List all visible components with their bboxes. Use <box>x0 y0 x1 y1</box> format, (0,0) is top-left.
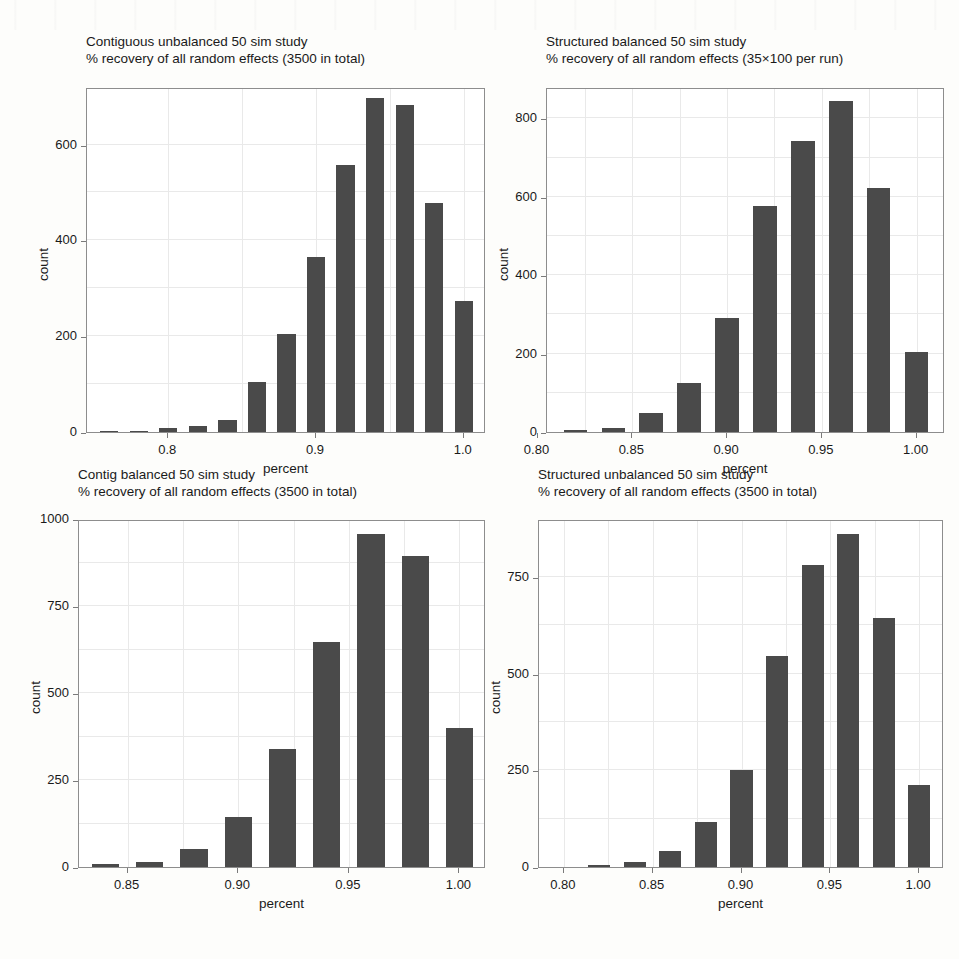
y-tick-label: 0 <box>31 424 77 439</box>
x-tick-label: 0.95 <box>799 877 859 892</box>
histogram-bar <box>396 105 414 432</box>
histogram-bar <box>791 141 815 432</box>
histogram-bar <box>867 188 891 432</box>
plot-area <box>538 520 943 868</box>
vertical-gridline <box>697 521 698 867</box>
histogram-bar <box>446 728 473 867</box>
y-tick-mark <box>73 694 78 695</box>
x-tick-label: 0.85 <box>601 442 661 457</box>
y-tick-mark <box>541 355 546 356</box>
panel-subtitle-line2: % recovery of all random effects (35×100… <box>546 50 843 67</box>
y-tick-label: 800 <box>491 110 537 125</box>
y-tick-label: 200 <box>31 328 77 343</box>
panel-contiguous-unbalanced: Contiguous unbalanced 50 sim study % rec… <box>0 0 480 478</box>
x-axis-title: percent <box>78 896 485 911</box>
vertical-gridline <box>238 521 239 867</box>
panel-title-line1: Structured balanced 50 sim study <box>546 33 746 50</box>
panel-title-line1: Structured unbalanced 50 sim study <box>538 466 753 483</box>
y-tick-mark <box>73 607 78 608</box>
plot-area <box>86 88 485 433</box>
y-tick-label: 400 <box>31 232 77 247</box>
x-tick-mark <box>726 433 727 438</box>
horizontal-gridline <box>539 576 942 577</box>
y-tick-label: 500 <box>483 666 529 681</box>
vertical-gridline <box>608 521 609 867</box>
histogram-bar <box>837 534 859 867</box>
histogram-bar <box>766 656 788 867</box>
x-axis-title: percent <box>538 896 943 911</box>
histogram-bar <box>425 203 443 432</box>
panel-title-line1: Contiguous unbalanced 50 sim study <box>86 33 307 50</box>
vertical-gridline <box>653 521 654 867</box>
x-tick-label: 1.00 <box>888 877 948 892</box>
figure-panel-grid: Contiguous unbalanced 50 sim study % rec… <box>0 0 959 959</box>
y-tick-label: 0 <box>483 859 529 874</box>
histogram-bar <box>357 534 384 867</box>
y-tick-mark <box>73 781 78 782</box>
histogram-bar <box>802 565 824 867</box>
histogram-bar <box>136 862 163 867</box>
y-tick-mark <box>533 868 538 869</box>
histogram-bar <box>639 413 663 432</box>
y-tick-mark <box>541 198 546 199</box>
histogram-bar <box>730 770 752 867</box>
x-tick-label: 0.8 <box>137 442 197 457</box>
y-tick-mark <box>81 433 86 434</box>
x-tick-mark <box>563 868 564 873</box>
histogram-bar <box>564 430 588 432</box>
x-tick-label: 0.9 <box>285 442 345 457</box>
histogram-bar <box>905 352 929 432</box>
x-tick-label: 0.90 <box>207 877 267 892</box>
x-tick-label: 0.80 <box>533 877 593 892</box>
panel-subtitle-line2: % recovery of all random effects (3500 i… <box>86 50 365 67</box>
histogram-bar <box>159 428 177 432</box>
histogram-bar <box>180 849 207 867</box>
y-tick-mark <box>81 146 86 147</box>
histogram-bar <box>455 301 473 432</box>
x-tick-label: 0.85 <box>622 877 682 892</box>
x-tick-mark <box>821 433 822 438</box>
histogram-bar <box>130 431 148 433</box>
histogram-bar <box>225 817 252 867</box>
x-tick-mark <box>315 433 316 438</box>
vertical-gridline <box>822 89 823 432</box>
x-tick-mark <box>829 868 830 873</box>
vertical-gridline <box>564 521 565 867</box>
x-tick-label: 0.95 <box>318 877 378 892</box>
histogram-bar <box>677 383 701 432</box>
y-tick-mark <box>81 241 86 242</box>
y-axis-title: count <box>488 681 503 714</box>
y-tick-label: 250 <box>23 772 69 787</box>
x-tick-label: 1.00 <box>886 442 946 457</box>
x-tick-mark <box>741 868 742 873</box>
x-tick-label: 0.95 <box>791 442 851 457</box>
x-tick-mark <box>537 433 538 438</box>
horizontal-gridline <box>87 144 484 145</box>
x-tick-mark <box>631 433 632 438</box>
y-tick-mark <box>81 337 86 338</box>
y-tick-label: 0 <box>23 859 69 874</box>
x-tick-mark <box>918 868 919 873</box>
vertical-gridline <box>183 521 184 867</box>
x-tick-mark <box>652 868 653 873</box>
horizontal-gridline <box>547 157 943 158</box>
x-tick-mark <box>127 868 128 873</box>
histogram-bar <box>269 749 296 867</box>
histogram-bar <box>402 556 429 867</box>
histogram-bar <box>100 431 118 433</box>
x-tick-label: 0.90 <box>696 442 756 457</box>
histogram-bar <box>307 257 325 432</box>
panel-structured-balanced: Structured balanced 50 sim study % recov… <box>480 0 959 478</box>
histogram-bar <box>92 864 119 867</box>
y-tick-mark <box>533 578 538 579</box>
y-tick-label: 250 <box>483 762 529 777</box>
vertical-gridline <box>349 521 350 867</box>
y-tick-label: 500 <box>23 685 69 700</box>
histogram-bar <box>248 382 266 432</box>
y-tick-label: 600 <box>31 137 77 152</box>
vertical-gridline <box>632 89 633 432</box>
x-tick-mark <box>463 433 464 438</box>
panel-title-line1: Contig balanced 50 sim study <box>78 466 255 483</box>
histogram-bar <box>829 101 853 432</box>
histogram-bar <box>313 642 340 867</box>
